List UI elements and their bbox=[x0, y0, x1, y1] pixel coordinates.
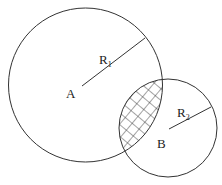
label-a: A bbox=[66, 86, 76, 101]
label-r2: R2 bbox=[177, 105, 190, 122]
label-b: B bbox=[157, 136, 166, 151]
two-circles-diagram: A B R1 R2 bbox=[0, 0, 222, 185]
radius-r1-line bbox=[82, 38, 145, 86]
radius-r2-line bbox=[169, 107, 211, 129]
label-r1: R1 bbox=[99, 52, 112, 69]
